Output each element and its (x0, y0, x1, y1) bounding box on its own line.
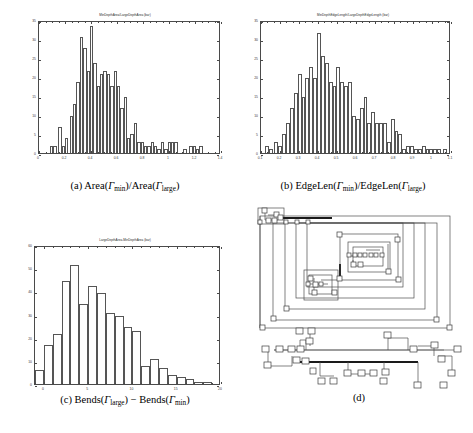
x-tick-minor (350, 22, 351, 23)
bar (88, 286, 97, 384)
x-tick-minor (46, 152, 47, 153)
x-tick-minor (445, 22, 446, 23)
x-tick-minor (343, 152, 344, 153)
diagram-d (248, 206, 470, 396)
x-tick-minor (274, 22, 275, 23)
x-tick-minor (413, 22, 414, 23)
x-tick-label: 1 (167, 156, 169, 160)
x-tick-minor (189, 152, 190, 153)
caption-a-prefix: (a) (71, 180, 83, 191)
y-tick (447, 98, 449, 99)
x-tick-minor (426, 22, 427, 23)
y-tick (39, 136, 41, 137)
x-tick-minor (163, 22, 164, 23)
x-tick-minor (78, 22, 79, 23)
x-tick-minor (130, 152, 131, 153)
x-tick-minor (52, 152, 53, 153)
y-tick (261, 98, 263, 99)
y-tick (35, 340, 37, 341)
x-tick-minor (451, 152, 452, 153)
x-tick-minor (91, 22, 92, 23)
bar (186, 379, 195, 384)
y-tick-label: 10 (22, 360, 32, 364)
x-tick-minor (70, 247, 71, 248)
x-tick-minor (88, 247, 89, 248)
x-tick-minor (137, 152, 138, 153)
x-tick-minor (104, 152, 105, 153)
y-tick-label: 10 (26, 114, 36, 118)
x-tick-minor (106, 383, 107, 384)
plot-b-title: MinDepthEdgeLength/LargeDepthEdgeLength … (242, 13, 464, 18)
x-tick-minor (381, 152, 382, 153)
y-tick (261, 117, 263, 118)
x-tick-minor (419, 152, 420, 153)
x-tick-minor (168, 247, 169, 248)
x-tick-minor (59, 22, 60, 23)
bar (124, 327, 133, 384)
x-tick-minor (169, 152, 170, 153)
x-tick-minor (79, 247, 80, 248)
x-tick-minor (432, 152, 433, 153)
bar (150, 359, 159, 384)
x-tick-minor (318, 152, 319, 153)
y-tick-label: 20 (26, 76, 36, 80)
y-tick-label: 10 (248, 114, 258, 118)
x-tick-minor (117, 152, 118, 153)
x-tick-minor (177, 383, 178, 384)
y-tick (261, 79, 263, 80)
plot-c-title: LargeDepthArea-MinDepthArea (bar) (14, 238, 236, 243)
x-tick-minor (305, 22, 306, 23)
x-tick-minor (59, 152, 60, 153)
x-tick-minor (46, 22, 47, 23)
x-tick-minor (168, 383, 169, 384)
caption-c-text: Bends(Γlarge) − Bends(Γmin) (75, 394, 190, 405)
x-tick-minor (195, 152, 196, 153)
bar (44, 345, 53, 384)
x-tick-minor (350, 152, 351, 153)
x-tick-minor (267, 152, 268, 153)
bar (53, 334, 62, 384)
x-tick-minor (194, 247, 195, 248)
x-tick-minor (299, 152, 300, 153)
panel-d: (d) (248, 206, 470, 422)
x-tick-minor (88, 383, 89, 384)
x-tick-minor (221, 247, 222, 248)
x-tick-minor (394, 152, 395, 153)
y-tick-label: 30 (248, 38, 258, 42)
y-tick (217, 98, 219, 99)
x-tick-minor (62, 383, 63, 384)
y-tick (39, 60, 41, 61)
x-tick-minor (202, 22, 203, 23)
x-tick-minor (432, 22, 433, 23)
x-tick-label: 0.6 (353, 156, 358, 160)
x-tick-minor (445, 152, 446, 153)
x-tick-minor (52, 22, 53, 23)
x-tick-minor (438, 22, 439, 23)
x-tick-minor (286, 22, 287, 23)
x-tick-minor (208, 22, 209, 23)
x-tick-minor (176, 22, 177, 23)
plot-b: MinDepthEdgeLength/LargeDepthEdgeLength … (242, 8, 464, 176)
x-tick-minor (195, 22, 196, 23)
x-tick-minor (70, 383, 71, 384)
x-tick-minor (124, 383, 125, 384)
panel-a: MinDepthArea/LargeDepthArea (bar) 00.20.… (14, 8, 236, 198)
x-tick-minor (203, 383, 204, 384)
x-tick-minor (375, 152, 376, 153)
x-tick-minor (208, 152, 209, 153)
x-tick-minor (72, 152, 73, 153)
bar (194, 382, 203, 384)
caption-b: (b) EdgeLen(Γmin)/EdgeLen(Γlarge) (242, 180, 464, 191)
caption-a: (a) Area(Γmin)/Area(Γlarge) (14, 180, 236, 191)
x-tick-minor (65, 22, 66, 23)
y-tick (217, 60, 219, 61)
bar (141, 366, 150, 384)
bar (159, 368, 168, 384)
x-tick-label: 0.5 (334, 156, 339, 160)
x-tick-minor (186, 383, 187, 384)
x-tick-label: 0.8 (140, 156, 145, 160)
x-tick-minor (337, 22, 338, 23)
y-tick (217, 136, 219, 137)
x-tick-minor (98, 22, 99, 23)
x-tick-minor (156, 22, 157, 23)
